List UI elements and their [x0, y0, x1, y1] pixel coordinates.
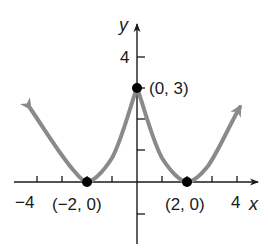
- x-axis-label: x: [248, 194, 259, 214]
- x-tick-label-neg4: −4: [15, 193, 34, 212]
- x-tick-label-4: 4: [231, 193, 240, 212]
- function-curve: [30, 88, 240, 182]
- point-2-0: [182, 177, 192, 187]
- point-0-3: [132, 83, 142, 93]
- y-axis-label: y: [117, 15, 129, 35]
- point-label-2-0: (2, 0): [165, 195, 205, 214]
- y-ticks: [137, 57, 145, 214]
- point-neg2-0: [82, 177, 92, 187]
- point-label-0-3: (0, 3): [149, 79, 189, 98]
- point-label-neg2-0: (−2, 0): [52, 195, 102, 214]
- graph-plot: y x 4 −4 4 (0, 3) (−2, 0) (2, 0): [0, 0, 268, 250]
- y-tick-label-4: 4: [120, 48, 129, 67]
